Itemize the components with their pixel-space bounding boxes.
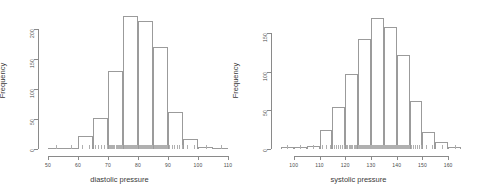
x-axis-tick	[371, 156, 372, 160]
histogram-bar	[358, 39, 371, 149]
y-axis-tick-label: 50	[262, 110, 268, 138]
y-axis-tick-label: 100	[29, 89, 35, 117]
rug-tick	[334, 145, 335, 150]
histogram-bar	[108, 71, 123, 149]
y-axis-title-diastolic: Frequency	[0, 50, 7, 110]
x-axis-tick	[198, 156, 199, 160]
x-axis-tick	[448, 156, 449, 160]
rug-tick	[340, 145, 341, 150]
x-axis-tick-label: 120	[331, 162, 359, 168]
y-axis-tick-label: 200	[29, 29, 35, 57]
rug-tick	[413, 145, 414, 150]
rug-tick	[169, 145, 170, 150]
rug-tick	[330, 145, 331, 150]
rug-tick	[455, 145, 456, 150]
rug-tick	[221, 145, 222, 150]
histogram-bar	[123, 16, 138, 149]
histogram-bar	[138, 21, 153, 149]
rug-tick	[56, 145, 57, 150]
rug-tick	[426, 145, 427, 150]
rug-tick	[421, 145, 422, 150]
x-axis-tick	[422, 156, 423, 160]
rug-tick	[104, 145, 105, 150]
x-axis-tick	[397, 156, 398, 160]
x-axis-tick-label: 130	[357, 162, 385, 168]
rug-tick	[287, 145, 288, 150]
x-axis-tick-label: 160	[434, 162, 462, 168]
panel-systolic-pressure: 050100150100110120130140150160 systolic …	[239, 0, 478, 193]
x-axis-tick	[108, 156, 109, 160]
panel-diastolic-pressure: 0501001502005060708090100110 diastolic p…	[0, 0, 239, 193]
rug-tick	[89, 145, 90, 150]
histogram-bar	[371, 18, 384, 149]
rug-tick	[177, 145, 178, 150]
rug-tick	[336, 145, 337, 150]
x-axis-tick-label: 50	[34, 162, 62, 168]
x-axis-tick-label: 150	[408, 162, 436, 168]
rug-tick	[182, 145, 183, 150]
rug-tick	[415, 145, 416, 150]
histogram-bar	[78, 136, 93, 149]
rug-tick	[167, 145, 168, 150]
histogram-bar	[168, 112, 183, 149]
x-axis-tick	[48, 156, 49, 160]
x-axis-tick	[228, 156, 229, 160]
x-axis-tick-label: 140	[383, 162, 411, 168]
rug-tick	[187, 145, 188, 150]
y-axis-line	[38, 29, 39, 149]
rug-tick	[419, 145, 420, 150]
plot-area-diastolic: 0501001502005060708090100110	[0, 0, 239, 193]
x-axis-tick	[138, 156, 139, 160]
rug-tick	[342, 145, 343, 150]
rug-tick	[82, 145, 83, 150]
plot-area-systolic: 050100150100110120130140150160	[239, 0, 478, 193]
x-axis-tick	[294, 156, 295, 160]
rug-tick	[179, 145, 180, 150]
rug-tick	[174, 145, 175, 150]
y-axis-title-systolic: Frequency	[231, 50, 240, 110]
y-axis-tick-label: 50	[29, 119, 35, 147]
x-axis-tick-label: 90	[154, 162, 182, 168]
x-axis-tick-label: 100	[184, 162, 212, 168]
rug-tick	[322, 145, 323, 150]
y-axis-tick-label: 150	[29, 59, 35, 87]
histogram-bar	[422, 132, 435, 149]
rug-tick	[411, 145, 412, 150]
histogram-bar	[183, 139, 198, 149]
rug-tick	[101, 145, 102, 150]
rug-tick	[344, 145, 345, 150]
rug-tick	[326, 145, 327, 150]
histogram-bar	[332, 107, 345, 149]
rug-tick	[107, 145, 108, 150]
x-axis-tick	[320, 156, 321, 160]
x-axis-tick-label: 110	[214, 162, 242, 168]
y-axis-tick-label: 0	[262, 149, 268, 177]
histogram-bar	[345, 74, 358, 149]
rug-tick	[71, 145, 72, 150]
x-axis-tick-label: 70	[94, 162, 122, 168]
y-axis-line	[271, 33, 272, 149]
rug-tick	[432, 145, 433, 150]
x-axis-title-diastolic: diastolic pressure	[0, 175, 239, 184]
x-axis-tick	[78, 156, 79, 160]
histogram-bar	[410, 101, 423, 149]
x-axis-tick	[345, 156, 346, 160]
x-axis-tick-label: 60	[64, 162, 92, 168]
x-axis-tick-label: 110	[306, 162, 334, 168]
rug-tick	[95, 145, 96, 150]
rug-tick	[194, 145, 195, 150]
rug-tick	[442, 145, 443, 150]
y-axis-tick-label: 100	[262, 72, 268, 100]
histogram-bar	[153, 47, 168, 149]
histogram-bar	[384, 27, 397, 149]
rug-tick	[313, 145, 314, 150]
y-axis-tick-label: 150	[262, 33, 268, 61]
x-axis-tick	[168, 156, 169, 160]
x-axis-title-systolic: systolic pressure	[239, 175, 478, 184]
x-axis-tick-label: 80	[124, 162, 152, 168]
rug-tick	[338, 145, 339, 150]
x-axis-tick-label: 100	[280, 162, 308, 168]
rug-tick	[417, 145, 418, 150]
rug-tick	[300, 145, 301, 150]
rug-tick	[98, 145, 99, 150]
